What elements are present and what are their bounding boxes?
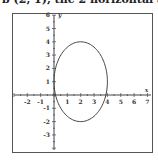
x-tick-label: -2 [24, 98, 31, 105]
y-tick-label: 2 [46, 64, 50, 71]
y-tick-label: 3 [46, 51, 50, 58]
y-axis-label: y [57, 11, 62, 19]
x-axis-label: x [144, 86, 149, 93]
y-tick-label: -2 [43, 118, 50, 125]
y-tick-label: -3 [43, 131, 50, 138]
x-tick-label: 4 [105, 98, 109, 105]
x-tick-label: 2 [79, 98, 83, 105]
y-tick-label: 1 [46, 78, 50, 85]
y-tick-label: 6 [46, 11, 50, 18]
x-tick-label: 7 [145, 98, 149, 105]
y-tick-label: 4 [46, 38, 50, 45]
ellipse-curve [54, 42, 107, 122]
x-tick-label: 5 [119, 98, 123, 105]
y-tick-label: 5 [46, 25, 50, 32]
x-tick-label: 1 [65, 98, 69, 105]
y-tick-label: -1 [43, 104, 50, 111]
x-tick-label: 3 [92, 98, 96, 105]
ellipse-chart: -2-11234567-3-2-1123456xy [0, 0, 158, 163]
plot-frame [13, 14, 153, 153]
x-tick-label: 6 [132, 98, 136, 105]
